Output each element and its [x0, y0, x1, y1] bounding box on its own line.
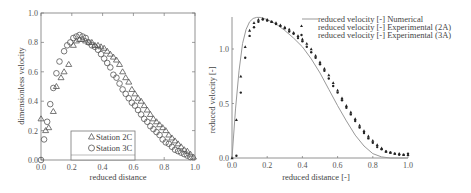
x-tick-label: 0.4 — [297, 161, 307, 170]
x-tick-label: 0.2 — [262, 161, 272, 170]
right-legend: reduced velocity [-] Numerical reduced v… — [300, 14, 451, 40]
x-tick-label: 1.0 — [403, 161, 413, 170]
legend-label-station-3c: Station 3C — [96, 143, 132, 153]
x-tick-label: 0.4 — [98, 163, 108, 172]
left-y-axis-label: dimensionless velocity — [16, 46, 26, 124]
y-tick-label: 0.8 — [28, 38, 38, 47]
left-x-axis-label: reduced distance — [90, 172, 147, 182]
y-tick-label: 0.0 — [28, 156, 38, 165]
x-tick-label: 0.8 — [159, 163, 169, 172]
right-plot: 0.00.20.40.60.81.00.00.51.0 reduced dist… — [207, 14, 451, 182]
right-x-axis-label: reduced distance [-] — [282, 172, 350, 182]
y-tick-label: 0.5 — [219, 100, 229, 109]
left-plot: 0.00.20.40.60.81.00.00.20.40.60.81.0 red… — [16, 9, 200, 182]
y-tick-label: 1.0 — [28, 9, 38, 18]
chart-figure: 0.00.20.40.60.81.00.00.20.40.60.81.0 red… — [0, 0, 471, 193]
legend-label-experimental-3a: reduced velocity [-] Experimental (3A) — [318, 30, 451, 40]
x-tick-label: 0.8 — [368, 161, 378, 170]
legend-label-station-2c: Station 2C — [96, 132, 132, 142]
y-tick-label: 1.0 — [219, 45, 229, 54]
y-tick-label: 0.2 — [28, 127, 38, 136]
y-tick-label: 0.0 — [219, 154, 229, 163]
triangle-marker-icon — [300, 25, 303, 28]
right-axis-ticks: 0.00.20.40.60.81.00.00.51.0 — [219, 45, 413, 170]
x-tick-label: 0.2 — [67, 163, 77, 172]
y-tick-label: 0.6 — [28, 68, 38, 77]
right-y-axis-label: reduced velocity [-] — [207, 66, 217, 133]
x-tick-label: 0.6 — [128, 163, 138, 172]
left-legend: Station 2C Station 3C — [71, 131, 135, 160]
x-tick-label: 1.0 — [190, 163, 200, 172]
x-tick-label: 0.6 — [333, 161, 343, 170]
y-tick-label: 0.4 — [28, 97, 38, 106]
dot-marker-icon — [300, 34, 302, 36]
